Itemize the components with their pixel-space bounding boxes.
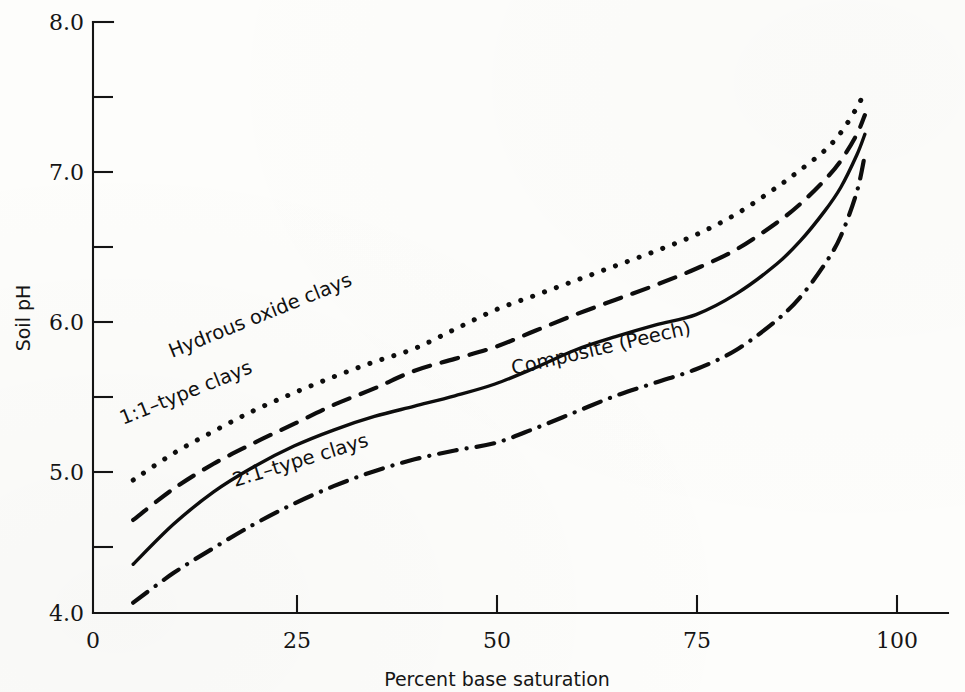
y-axis-ticklabels: 8.0 7.0 6.0 5.0 4.0 — [49, 10, 84, 626]
x-ticklabel-100: 100 — [876, 628, 918, 653]
curve-composite-peech — [133, 134, 865, 564]
x-axis-ticklabels: 0 25 50 75 100 — [86, 628, 918, 653]
curve-label-hydrous-oxide-clays: Hydrous oxide clays — [165, 268, 355, 363]
curve-label-composite-peech: Composite (Peech) — [509, 316, 693, 380]
x-ticklabel-50: 50 — [483, 628, 511, 653]
y-ticklabel-8: 8.0 — [49, 10, 84, 35]
curve-hydrous-oxide-clays — [133, 91, 865, 480]
chart-canvas: 8.0 7.0 6.0 5.0 4.0 0 25 50 75 100 Soil … — [0, 0, 965, 692]
y-ticklabel-6: 6.0 — [49, 310, 84, 335]
curve-label-2-1-type-clays: 2:1–type clays — [230, 429, 371, 492]
y-ticklabel-7: 7.0 — [49, 160, 84, 185]
y-ticklabel-4: 4.0 — [49, 601, 84, 626]
x-ticklabel-75: 75 — [683, 628, 711, 653]
curve-label-1-1-type-clays: 1:1–type clays — [116, 356, 255, 430]
x-ticklabel-0: 0 — [86, 628, 100, 653]
x-ticklabel-25: 25 — [283, 628, 311, 653]
y-axis-title: Soil pH — [12, 285, 34, 352]
y-axis-ticks — [93, 97, 113, 547]
figure-soil-ph-vs-base-saturation: 8.0 7.0 6.0 5.0 4.0 0 25 50 75 100 Soil … — [0, 0, 965, 692]
x-axis-ticks — [297, 595, 897, 613]
x-axis-title: Percent base saturation — [384, 668, 610, 690]
axis-lines — [93, 22, 948, 613]
curves-group — [133, 91, 865, 602]
y-ticklabel-5: 5.0 — [49, 460, 84, 485]
